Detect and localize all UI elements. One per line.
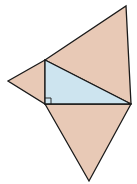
diagram-canvas xyxy=(0,0,137,184)
leg-vertical-triangle xyxy=(8,60,45,104)
leg-horizontal-triangle xyxy=(45,104,131,181)
